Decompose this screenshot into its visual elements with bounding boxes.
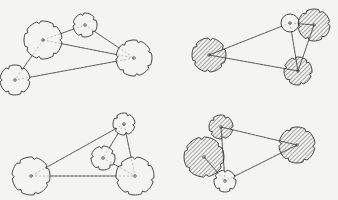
panel-top-left xyxy=(0,13,152,95)
network-diagram xyxy=(0,0,338,200)
node xyxy=(214,170,236,192)
diagram-canvas xyxy=(0,0,338,200)
node xyxy=(0,65,30,95)
gear-circle-icon xyxy=(0,65,30,95)
gear-circle-icon xyxy=(116,157,154,195)
node xyxy=(116,157,154,195)
panel-bottom-left xyxy=(12,113,154,195)
panel-bottom-right xyxy=(184,115,315,192)
edge-overlay xyxy=(225,145,297,181)
gear-circle-icon xyxy=(214,170,236,192)
panel-top-right xyxy=(192,9,330,85)
